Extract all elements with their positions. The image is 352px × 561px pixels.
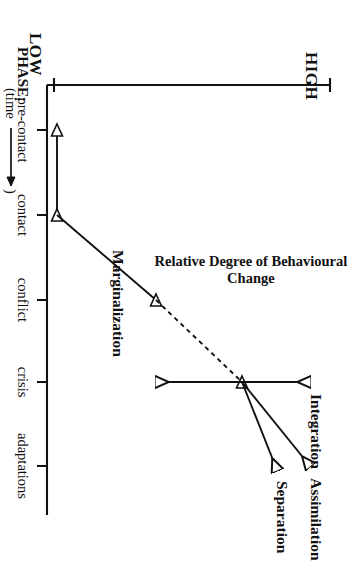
data-marker-pre-contact xyxy=(52,124,63,136)
y-axis-high-label: HIGH xyxy=(303,52,320,100)
branch-label-integration: Integration xyxy=(309,394,325,469)
time-arrow-head xyxy=(7,177,15,186)
branch-label-separation: Separation xyxy=(275,481,291,553)
x-axis-tick-label-crisis: crisis xyxy=(16,367,31,398)
x-axis-tick-label-adaptations: adaptations xyxy=(16,433,31,499)
x-axis-tick-label-contact: contact xyxy=(16,194,31,236)
x-axis-tick-label-conflict: conflict xyxy=(16,278,31,322)
x-axis-tick-label-pre-contact: pre-contact xyxy=(16,97,31,162)
y-axis-title: Relative Degree of Behavioural Change xyxy=(146,253,352,287)
branch-label-marginalization: Marginalization xyxy=(111,250,127,357)
series-conflict-to-crisis-dashed xyxy=(156,300,242,382)
branch-label-assimilation: Assimilation xyxy=(309,478,325,561)
branch-line-separation xyxy=(242,382,277,470)
series-rise-to-conflict xyxy=(57,215,156,300)
branch-line-assimilation xyxy=(242,382,310,466)
